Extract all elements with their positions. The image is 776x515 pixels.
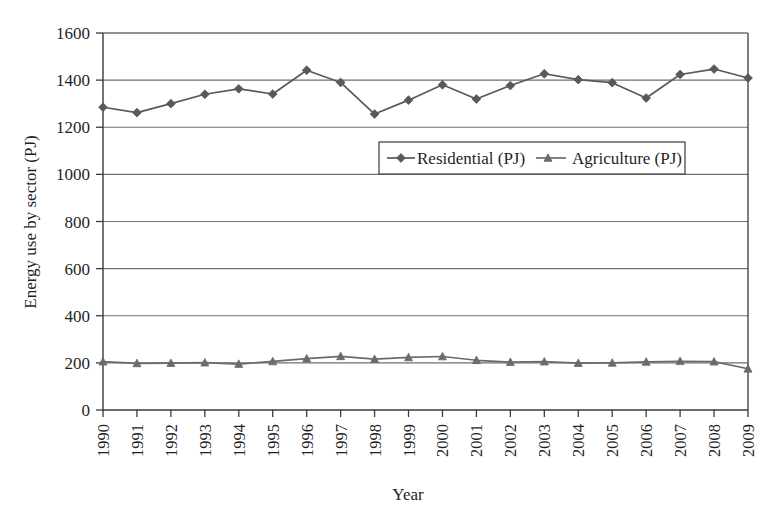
y-tick-label: 0 [82, 401, 91, 420]
chart-figure: 02004006008001000120014001600 1990199119… [0, 0, 776, 515]
x-tick-label: 2000 [433, 424, 452, 457]
x-tick-label: 2001 [467, 424, 486, 457]
x-tick-label: 1996 [298, 424, 317, 457]
y-tick-label: 1000 [56, 165, 90, 184]
x-tick-label: 2002 [501, 424, 520, 457]
line-chart: 02004006008001000120014001600 1990199119… [0, 0, 776, 515]
x-tick-label: 1992 [162, 424, 181, 457]
x-tick-label: 2003 [535, 424, 554, 457]
x-tick-label: 1993 [196, 424, 215, 457]
legend-label-residential: Residential (PJ) [417, 149, 525, 168]
x-tick-label: 1995 [264, 424, 283, 457]
x-tick-label: 1997 [332, 424, 351, 457]
x-tick-label: 2009 [739, 424, 758, 457]
x-tick-label: 1994 [230, 424, 249, 457]
legend-label-agriculture: Agriculture (PJ) [572, 149, 682, 168]
x-tick-label: 2008 [705, 424, 724, 457]
y-tick-label: 800 [65, 213, 91, 232]
y-axis-title: Energy use by sector (PJ) [21, 135, 40, 308]
x-tick-label: 1999 [400, 424, 419, 457]
x-tick-label: 2004 [569, 424, 588, 457]
x-tick-label: 2007 [671, 424, 690, 457]
y-tick-label: 600 [65, 260, 91, 279]
y-tick-label: 1400 [56, 71, 90, 90]
x-tick-label: 1990 [94, 424, 113, 457]
chart-legend[interactable]: Residential (PJ)Agriculture (PJ) [379, 142, 685, 174]
x-tick-label: 1991 [128, 424, 147, 457]
x-axis-title: Year [392, 485, 424, 504]
x-tick-label: 1998 [366, 424, 385, 457]
x-tick-label: 2005 [603, 424, 622, 457]
y-tick-label: 1600 [56, 24, 90, 43]
chart-background [0, 0, 776, 515]
y-tick-label: 400 [65, 307, 91, 326]
x-tick-label: 2006 [637, 424, 656, 457]
y-tick-label: 200 [65, 354, 91, 373]
y-tick-label: 1200 [56, 118, 90, 137]
